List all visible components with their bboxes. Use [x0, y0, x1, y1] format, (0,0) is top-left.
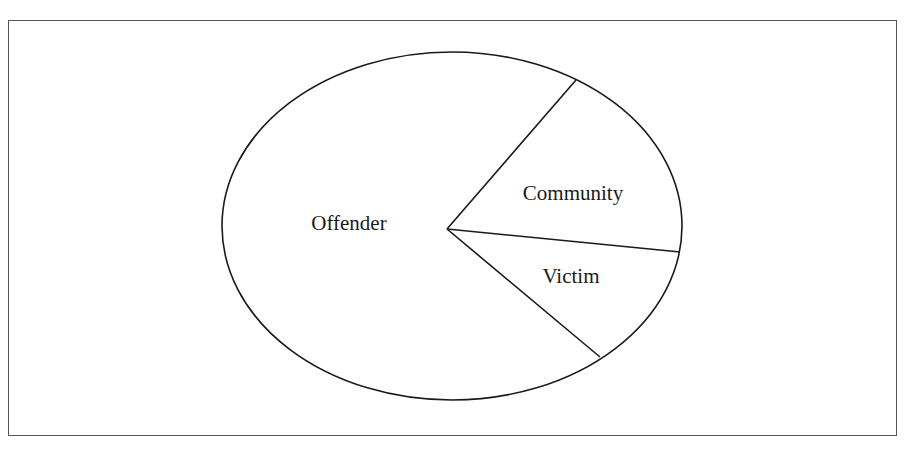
slice-label-offender: Offender: [311, 211, 386, 235]
pie-chart: Offender Community Victim: [0, 0, 905, 451]
slice-label-victim: Victim: [542, 264, 599, 288]
pie-outline: [222, 52, 682, 400]
slice-label-community: Community: [523, 181, 624, 205]
